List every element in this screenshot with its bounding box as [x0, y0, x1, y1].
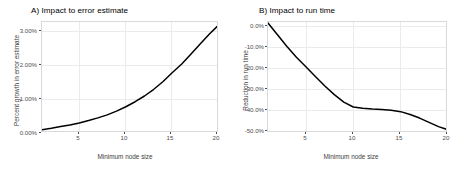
panel-a-y-tick-0: 0.00%: [9, 129, 37, 136]
panel-a-y-tickmark-0: [39, 132, 41, 133]
panel-b-x-tick-2: 15: [396, 134, 403, 141]
panel-a-x-tick-1: 10: [121, 134, 128, 141]
panel-a-title: A) Impact to error estimate: [31, 6, 128, 15]
panel-a-x-tick-3: 20: [213, 134, 220, 141]
panel-b-x-tickmark-0: [305, 132, 306, 134]
panel-b-y-tick-5: 0.0%: [234, 22, 264, 29]
figure-container: A) Impact to error estimate Percent grow…: [0, 0, 457, 169]
panel-b-x-axis-label: Minimum node size: [228, 153, 456, 160]
panel-b-x-tick-1: 10: [349, 134, 356, 141]
panel-b-plot-area: [267, 21, 447, 132]
panel-a-y-tick-2: 2.00%: [9, 61, 37, 68]
panel-b-y-tick-3: -20.0%: [234, 64, 264, 71]
panel-b-y-tick-2: -30.0%: [234, 85, 264, 92]
panel-a-y-tick-1: 1.00%: [9, 95, 37, 102]
panel-a-gridline-v-20: [217, 22, 218, 131]
panel-a-plot-area: [41, 21, 218, 132]
panel-a-x-tickmark-3: [216, 132, 217, 134]
panel-a-x-tickmark-2: [170, 132, 171, 134]
panel-a-y-axis-label: Percent growth in error estimate: [13, 31, 20, 131]
panel-a-x-tickmark-0: [78, 132, 79, 134]
panel-a-x-tick-2: 15: [167, 134, 174, 141]
panel-b-y-tick-1: -40.0%: [234, 106, 264, 113]
panel-b-y-tick-0: -50.0%: [234, 127, 264, 134]
panel-a: A) Impact to error estimate Percent grow…: [0, 0, 228, 169]
panel-b-x-tick-0: 5: [303, 134, 306, 141]
panel-b-y-tick-4: -10.0%: [234, 43, 264, 50]
panel-a-x-tick-0: 5: [76, 134, 79, 141]
panel-b-x-tickmark-1: [352, 132, 353, 134]
panel-a-x-tickmark-1: [124, 132, 125, 134]
panel-b: B) Impact to run time Reduction in run t…: [228, 0, 456, 169]
panel-a-x-axis-label: Minimum node size: [0, 153, 228, 160]
panel-b-x-tickmark-3: [446, 132, 447, 134]
panel-b-gridline-h-n50: [268, 131, 446, 132]
panel-b-line-series: [268, 22, 447, 132]
panel-b-title: B) Impact to run time: [259, 6, 335, 15]
panel-a-line-series: [42, 22, 218, 132]
panel-b-x-tickmark-2: [399, 132, 400, 134]
panel-a-y-tick-3: 3.00%: [9, 27, 37, 34]
panel-b-x-tick-3: 20: [443, 134, 450, 141]
